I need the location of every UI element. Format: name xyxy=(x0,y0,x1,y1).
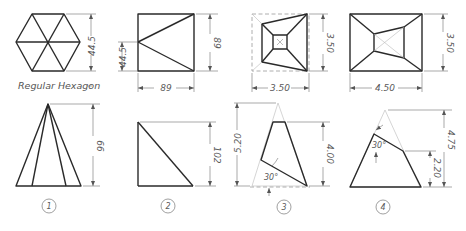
drawing-canvas: 44.5 Regular Hexagon 44.5 89 89 xyxy=(0,0,466,231)
pyramid-height-dim: 66 xyxy=(95,140,105,152)
rect-frustum-top-view-figure: 3.50 4.50 xyxy=(350,14,455,93)
truncated-triangle-3-figure: 30° 5.20 4.00 3 xyxy=(233,103,335,214)
figure-number-1: 1 xyxy=(46,202,51,211)
frustum4-right-dim: 3.50 xyxy=(445,33,455,53)
angle-label-4: 30° xyxy=(372,141,386,150)
drawing-sheet: 44.5 Regular Hexagon 44.5 89 89 xyxy=(0,0,466,231)
truncated3-right-dim: 4.00 xyxy=(325,144,335,164)
hexagon-figure: 44.5 Regular Hexagon xyxy=(16,14,100,91)
frustum-top-view-figure: 3.50 3.50 xyxy=(252,14,335,93)
hexagon-height-dim: 44.5 xyxy=(87,36,97,56)
truncated4-lower-dim: 2.20 xyxy=(432,158,442,178)
truncated3-left-dim: 5.20 xyxy=(233,133,243,153)
pyramid-figure: 66 1 xyxy=(16,104,105,213)
frustum3-bottom-dim: 3.50 xyxy=(270,83,290,93)
square-bottom-dim: 89 xyxy=(160,83,172,93)
truncated-triangle-4-figure: 30° 4.75 2.20 4 xyxy=(350,110,456,214)
square-left-dim: 44.5 xyxy=(118,47,128,67)
square-right-dim: 89 xyxy=(212,37,222,49)
figure-number-3: 3 xyxy=(281,203,286,212)
hexagon-caption: Regular Hexagon xyxy=(18,80,100,91)
figure-number-4: 4 xyxy=(380,203,385,212)
angle-label-3: 30° xyxy=(264,173,278,182)
wedge-height-dim: 102 xyxy=(212,146,222,163)
frustum4-bottom-dim: 4.50 xyxy=(375,83,395,93)
wedge-figure: 102 2 xyxy=(138,122,222,213)
frustum3-right-dim: 3.50 xyxy=(325,33,335,53)
truncated4-total-dim: 4.75 xyxy=(446,130,456,150)
figure-number-2: 2 xyxy=(165,202,170,211)
square-triangle-figure: 44.5 89 89 xyxy=(118,14,222,93)
